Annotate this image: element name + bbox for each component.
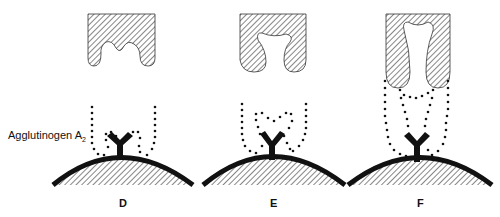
agglutinogen-label-subscript: 2 xyxy=(82,136,86,143)
agglutinogen-label: Agglutinogen A2 xyxy=(8,129,86,143)
dotted-outline-d xyxy=(91,106,157,157)
panel-f xyxy=(348,14,492,185)
antibody-shape-e xyxy=(240,14,306,72)
agglutinogen-label-text: Agglutinogen A xyxy=(8,129,82,141)
panel-label-e: E xyxy=(270,197,277,209)
panel-label-f: F xyxy=(417,197,424,209)
panel-d xyxy=(53,14,193,185)
antibody-shape-f xyxy=(386,14,450,88)
agglutinogen-diagram xyxy=(0,0,500,217)
panel-e xyxy=(203,14,345,185)
antibody-shape-d xyxy=(88,14,155,66)
panel-label-d: D xyxy=(119,197,127,209)
